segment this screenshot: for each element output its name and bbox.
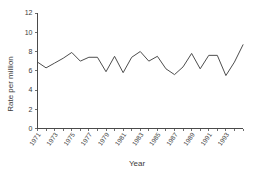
y-tick-label-2: 2 bbox=[29, 106, 33, 113]
x-tick-label-1991: 1991 bbox=[199, 131, 213, 147]
x-tick-label-1993: 1993 bbox=[216, 131, 230, 147]
x-tick-label-1979: 1979 bbox=[96, 131, 110, 147]
x-tick-label-1983: 1983 bbox=[131, 131, 145, 147]
y-tick-label-12: 12 bbox=[25, 9, 33, 16]
data-series-line bbox=[38, 45, 244, 76]
x-axis-title: Year bbox=[129, 159, 146, 168]
x-tick-label-1977: 1977 bbox=[79, 131, 93, 147]
y-tick-label-4: 4 bbox=[29, 86, 33, 93]
x-tick-label-1987: 1987 bbox=[165, 131, 179, 147]
y-axis-ticks: 024681012 bbox=[25, 9, 38, 132]
x-tick-label-1971: 1971 bbox=[28, 131, 42, 147]
x-tick-label-1981: 1981 bbox=[113, 131, 127, 147]
x-tick-label-1985: 1985 bbox=[148, 131, 162, 147]
x-tick-label-1989: 1989 bbox=[182, 131, 196, 147]
y-tick-label-0: 0 bbox=[29, 125, 33, 132]
x-axis-tick-labels: 1971197319751977197919811983198519871989… bbox=[28, 131, 231, 147]
line-chart: 024681012 197119731975197719791981198319… bbox=[0, 0, 265, 173]
y-axis-title: Rate per million bbox=[6, 56, 15, 112]
x-tick-label-1973: 1973 bbox=[45, 131, 59, 147]
x-tick-label-1975: 1975 bbox=[62, 131, 76, 147]
y-tick-label-8: 8 bbox=[29, 48, 33, 55]
y-tick-label-6: 6 bbox=[29, 67, 33, 74]
chart-canvas: 024681012 197119731975197719791981198319… bbox=[0, 0, 265, 173]
y-tick-label-10: 10 bbox=[25, 29, 33, 36]
